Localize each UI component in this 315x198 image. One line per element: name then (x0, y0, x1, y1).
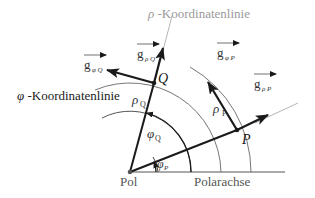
arc-r2 (102, 111, 191, 172)
svg-text:φ: φ (157, 157, 164, 171)
svg-text:ρ Q: ρ Q (144, 55, 155, 63)
label-rho-Q: ρ Q (131, 92, 146, 109)
label-g-phi-Q: g φ Q (84, 55, 106, 74)
vector-g-phi-Q (107, 70, 154, 83)
point-Q-label: Q (158, 71, 168, 86)
svg-text:g: g (84, 57, 91, 72)
label-phi-P: φ P (157, 157, 169, 172)
label-rho-P: ρ P (212, 101, 227, 118)
svg-text:ρ: ρ (131, 92, 138, 107)
svg-text:ρ: ρ (212, 101, 219, 116)
polar-coordinates-diagram: ρ -Koordinatenlinie φ -Koordinatenlinie … (0, 0, 315, 198)
label-g-rho-P: g ρ P (254, 74, 276, 93)
point-P-dot (235, 128, 240, 133)
pol-label: Pol (120, 174, 138, 189)
rho-coordinate-line-label: ρ -Koordinatenlinie (147, 6, 250, 21)
phi-coordinate-line-label: φ -Koordinatenlinie (17, 88, 120, 103)
svg-text:ρ P: ρ P (261, 85, 272, 93)
rho-coordinate-line-P (255, 103, 298, 123)
svg-text:φ P: φ P (225, 54, 236, 62)
svg-text:g: g (137, 46, 144, 61)
svg-text:P: P (163, 164, 169, 172)
vector-g-rho-P (237, 115, 268, 130)
label-g-rho-Q: g ρ Q (137, 44, 159, 63)
svg-text:g: g (254, 76, 261, 91)
svg-text:Q: Q (140, 100, 146, 109)
svg-text:φ: φ (147, 126, 154, 141)
svg-text:φ Q: φ Q (92, 66, 103, 74)
svg-text:P: P (222, 109, 227, 118)
point-P-label: P (241, 132, 251, 147)
polarachse-label: Polarachse (194, 174, 251, 189)
svg-text:Q: Q (155, 134, 161, 143)
arc-phi-P-arrow (154, 162, 156, 172)
arc-r4 (190, 67, 251, 172)
label-phi-Q: φ Q (147, 126, 161, 143)
point-Q-dot (152, 81, 157, 86)
label-g-phi-P: g φ P (217, 43, 239, 62)
svg-text:g: g (217, 45, 224, 60)
